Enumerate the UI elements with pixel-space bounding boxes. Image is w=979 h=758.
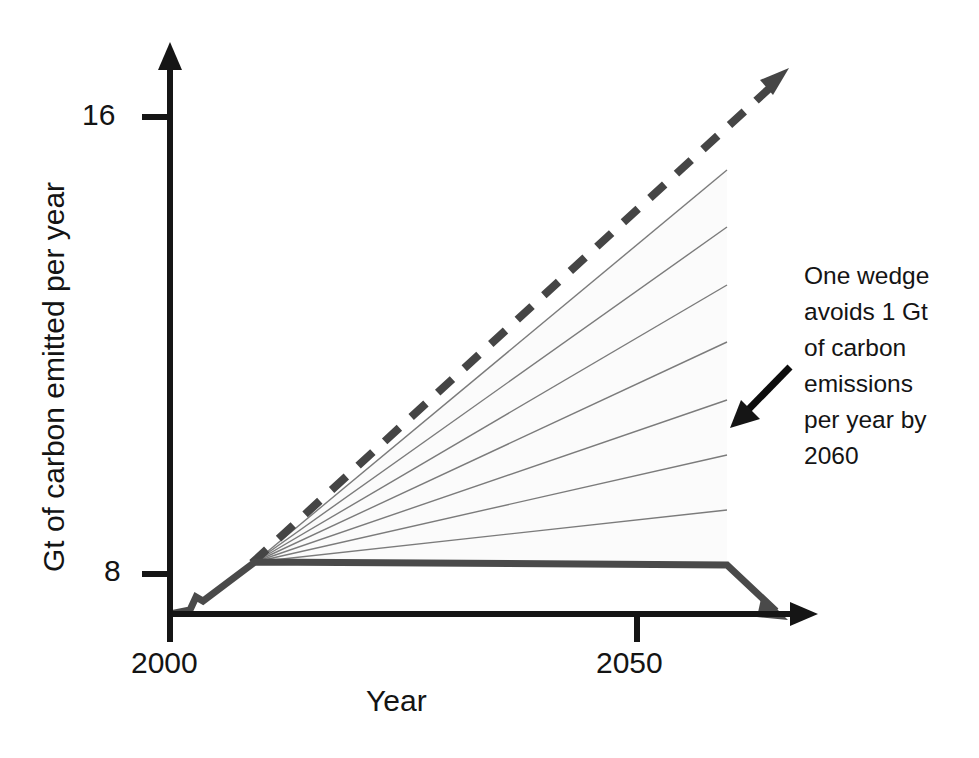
- x-axis-arrowhead: [790, 602, 818, 626]
- x-tick-label-2050: 2050: [596, 646, 663, 680]
- wedge-annotation-line-1: One wedge: [804, 258, 974, 294]
- y-axis: [142, 42, 182, 630]
- y-tick-label-8: 8: [104, 554, 121, 588]
- wedge-annotation-line-6: 2060: [804, 438, 974, 474]
- annotation-arrow: [730, 367, 790, 428]
- y-tick-label-16: 16: [82, 98, 115, 132]
- x-axis-title: Year: [366, 684, 427, 718]
- wedge-annotation-line-5: per year by: [804, 402, 974, 438]
- x-tick-label-2000: 2000: [131, 646, 198, 680]
- wedge-annotation-line-2: avoids 1 Gt: [804, 294, 974, 330]
- x-axis: [170, 602, 818, 642]
- y-axis-title: Gt of carbon emitted per year: [37, 147, 71, 607]
- wedge-annotation-line-4: emissions: [804, 366, 974, 402]
- y-axis-arrowhead: [158, 42, 182, 70]
- wedge-annotation-line-3: of carbon: [804, 330, 974, 366]
- wedge-annotation-text: One wedge avoids 1 Gt of carbon emission…: [804, 258, 974, 474]
- chart-canvas: 16 8 2000 2050 Year Gt of carbon emitted…: [0, 0, 979, 758]
